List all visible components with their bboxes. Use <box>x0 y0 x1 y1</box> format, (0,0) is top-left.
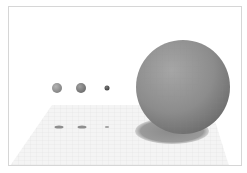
small-sphere-2-shadow <box>78 125 87 128</box>
small-sphere-2 <box>76 83 86 93</box>
small-sphere-1-shadow <box>55 125 64 128</box>
small-sphere-1 <box>52 83 62 93</box>
tiny-sphere <box>105 86 110 91</box>
scene-canvas <box>0 0 247 173</box>
large-sphere-texture <box>136 40 230 134</box>
tiny-sphere-shadow <box>105 126 109 128</box>
